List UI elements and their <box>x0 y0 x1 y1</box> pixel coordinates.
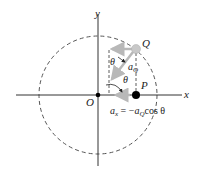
label-q: Q <box>142 37 150 49</box>
angle-arc-bottom <box>106 84 122 92</box>
x-axis-label: x <box>183 88 189 100</box>
theta-top-label: θ <box>110 56 115 67</box>
point-q <box>132 45 141 54</box>
aq-label: aQ <box>128 61 138 74</box>
label-p: P <box>140 79 148 91</box>
y-axis-label: y <box>94 7 100 19</box>
circular-motion-diagram: y x Q P O θ θ aQ ax = −aQcos θ <box>0 0 199 176</box>
point-p <box>132 91 140 99</box>
angle-arc-top <box>118 57 125 62</box>
theta-bottom-label: θ <box>123 74 128 85</box>
point-origin <box>96 93 101 98</box>
label-origin: O <box>86 96 94 108</box>
equation-label: ax = −aQcos θ <box>110 105 165 118</box>
